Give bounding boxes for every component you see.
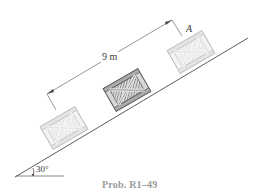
crate-upper-a bbox=[167, 31, 215, 74]
figure-caption: Prob. R1–49 bbox=[102, 180, 157, 190]
dimension-arrow-right-icon bbox=[165, 20, 172, 25]
angle-label: 30° bbox=[36, 165, 49, 174]
dimension-label: 9 m bbox=[100, 52, 119, 62]
witness-line-right bbox=[172, 20, 182, 36]
crate-lower bbox=[40, 107, 88, 150]
witness-line-left bbox=[47, 94, 56, 110]
point-label-a: A bbox=[186, 24, 192, 34]
dimension-arrow-left-icon bbox=[47, 89, 54, 94]
incline-surface bbox=[15, 38, 248, 177]
crate-middle bbox=[103, 69, 151, 112]
